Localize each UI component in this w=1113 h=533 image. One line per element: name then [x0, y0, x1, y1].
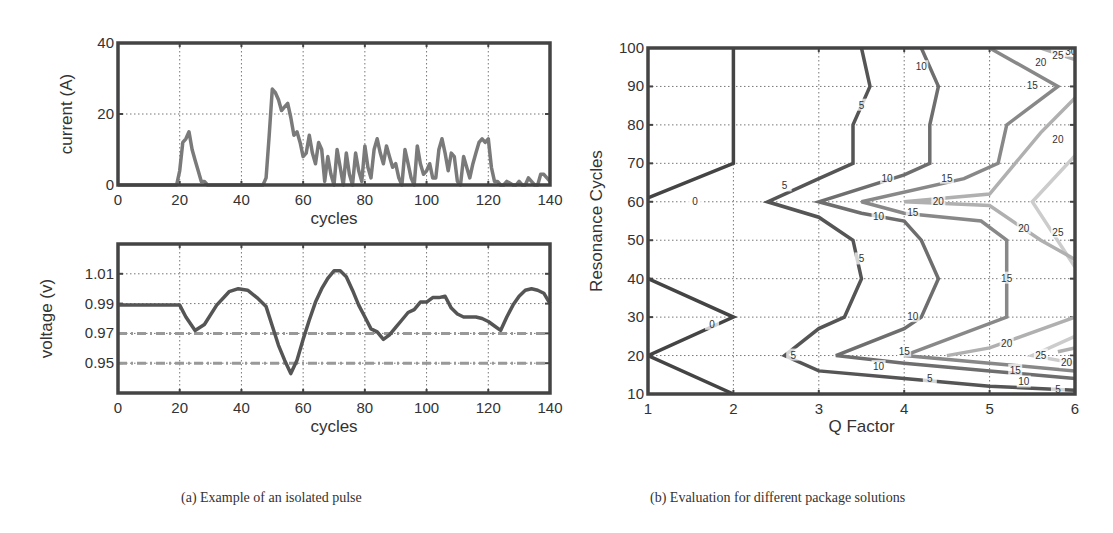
contour-label-25: 25: [1052, 50, 1064, 61]
y-axis-label: Resonance Cycles: [587, 150, 606, 292]
x-tick-label: 140: [537, 191, 562, 208]
y-axis-label: current (A): [57, 74, 76, 154]
contour-label-15: 15: [899, 346, 911, 357]
contour-label-10: 10: [1018, 376, 1030, 387]
x-tick-label: 80: [357, 191, 374, 208]
contour-label-5: 5: [782, 180, 788, 191]
contour-level-0: [648, 279, 733, 394]
contour-label-5: 5: [859, 253, 865, 264]
contour-chart: 123456102030405060708090100Q FactorReson…: [587, 39, 1079, 436]
contour-label-15: 15: [907, 207, 919, 218]
y-tick-label: 50: [627, 231, 644, 248]
contour-level-10: [819, 48, 1075, 379]
contour-label-25: 25: [1035, 350, 1047, 361]
current-chart: 02040608010012014002040cyclescurrent (A): [57, 34, 563, 228]
voltage-chart: 0204060801001201400.950.970.991.01cycles…: [37, 244, 563, 436]
x-tick-label: 120: [476, 399, 501, 416]
contour-level-0: [648, 48, 733, 198]
contour-label-20: 20: [1052, 134, 1064, 145]
contour-label-25: 25: [1052, 227, 1064, 238]
x-tick-label: 0: [114, 191, 122, 208]
x-axis-label: Q Factor: [828, 417, 894, 436]
y-tick-label: 90: [627, 77, 644, 94]
y-tick-label: 0.97: [85, 324, 114, 341]
contour-label-10: 10: [882, 173, 894, 184]
contour-lines: 0055555510101010101015151515151520202020…: [648, 45, 1078, 395]
contour-level-5: [768, 48, 1075, 390]
contour-label-5: 5: [859, 100, 865, 111]
y-tick-label: 0.99: [85, 295, 114, 312]
x-tick-label: 3: [815, 400, 823, 417]
contour-level-20: [1058, 348, 1075, 352]
y-tick-label: 0.95: [85, 354, 114, 371]
y-tick-label: 40: [627, 270, 644, 287]
caption-b: (b) Evaluation for different package sol…: [650, 490, 905, 506]
contour-label-0: 0: [709, 319, 715, 330]
y-tick-label: 0: [106, 176, 114, 193]
x-tick-label: 5: [985, 400, 993, 417]
caption-a: (a) Example of an isolated pulse: [181, 490, 362, 506]
contour-label-10: 10: [916, 61, 928, 72]
voltage-series-line: [118, 271, 550, 374]
y-axis-label: voltage (v): [37, 279, 56, 358]
x-tick-label: 20: [171, 399, 188, 416]
x-tick-label: 100: [414, 191, 439, 208]
contour-label-20: 20: [1001, 338, 1013, 349]
contour-label-5: 5: [790, 350, 796, 361]
contour-level-15: [862, 48, 1076, 371]
y-tick-label: 20: [97, 105, 114, 122]
contour-label-10: 10: [873, 361, 885, 372]
x-tick-label: 6: [1071, 400, 1079, 417]
contour-label-15: 15: [1010, 365, 1022, 376]
x-axis-label: cycles: [310, 209, 357, 228]
contour-label-10: 10: [873, 211, 885, 222]
x-tick-label: 100: [414, 399, 439, 416]
x-tick-label: 60: [295, 191, 312, 208]
x-tick-label: 1: [644, 400, 652, 417]
y-tick-label: 10: [627, 385, 644, 402]
contour-label-20: 20: [933, 196, 945, 207]
contour-label-15: 15: [1027, 80, 1039, 91]
y-tick-label: 30: [627, 308, 644, 325]
y-tick-label: 40: [97, 34, 114, 51]
x-tick-label: 0: [114, 399, 122, 416]
contour-label-15: 15: [1001, 273, 1013, 284]
y-tick-label: 80: [627, 116, 644, 133]
contour-label-20: 20: [1061, 357, 1073, 368]
contour-label-10: 10: [907, 311, 919, 322]
x-tick-label: 60: [295, 399, 312, 416]
y-tick-label: 100: [619, 39, 644, 56]
contour-label-0: 0: [692, 196, 698, 207]
x-tick-label: 120: [476, 191, 501, 208]
x-tick-label: 20: [171, 191, 188, 208]
figure: 02040608010012014002040cyclescurrent (A)…: [0, 0, 1113, 533]
contour-label-5: 5: [927, 373, 933, 384]
contour-label-20: 20: [1035, 57, 1047, 68]
y-tick-label: 60: [627, 193, 644, 210]
contour-label-20: 20: [1018, 223, 1030, 234]
x-tick-label: 80: [357, 399, 374, 416]
x-axis-label: cycles: [310, 417, 357, 436]
x-tick-label: 4: [900, 400, 908, 417]
y-tick-label: 1.01: [85, 265, 114, 282]
y-tick-label: 70: [627, 154, 644, 171]
x-tick-label: 140: [537, 399, 562, 416]
current-series-line: [118, 89, 550, 185]
x-tick-label: 40: [233, 399, 250, 416]
x-tick-label: 40: [233, 191, 250, 208]
contour-label-15: 15: [941, 173, 953, 184]
contour-level-25: [1032, 156, 1075, 268]
y-tick-label: 20: [627, 347, 644, 364]
contour-level-20: [947, 317, 1075, 356]
x-tick-label: 2: [729, 400, 737, 417]
